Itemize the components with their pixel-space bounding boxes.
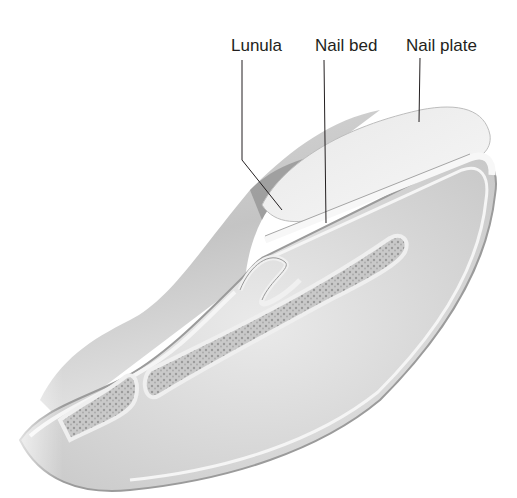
nail-plate-label: Nail plate bbox=[406, 37, 477, 54]
nail-bed-label: Nail bed bbox=[315, 37, 377, 54]
fingertip-illustration bbox=[0, 0, 517, 498]
lunula-label: Lunula bbox=[231, 37, 282, 54]
fingertip-diagram: Lunula Nail bed Nail plate bbox=[0, 0, 517, 498]
